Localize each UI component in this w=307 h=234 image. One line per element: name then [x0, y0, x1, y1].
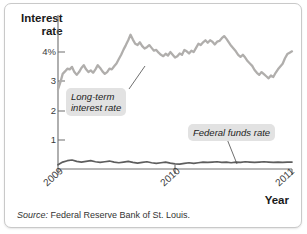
- annotation-long-term-line2: interest rate: [71, 102, 121, 113]
- source-note: Source: Federal Reserve Bank of St. Loui…: [17, 210, 190, 220]
- y-tick-label-1: 1: [30, 134, 56, 145]
- figure-card: Interest rate Year 4% 3 2 1 2009 2010 20…: [4, 3, 302, 228]
- annotation-long-term-line1: Long-term: [71, 91, 114, 102]
- annotation-long-term-interest-rate: Long-term interest rate: [66, 88, 126, 116]
- y-tick-label-2: 2: [30, 105, 56, 116]
- annotation-federal-funds-line1: Federal funds rate: [193, 127, 270, 138]
- y-tick-label-4: 4%: [30, 46, 56, 57]
- y-tick-label-3: 3: [30, 75, 56, 86]
- series-federal-funds-rate: [58, 160, 292, 165]
- source-text: Federal Reserve Bank of St. Louis.: [51, 210, 191, 220]
- leader-line-long-term: [129, 66, 145, 89]
- annotation-federal-funds-rate: Federal funds rate: [188, 124, 275, 141]
- source-prefix: Source:: [17, 210, 48, 220]
- series-long-term-interest-rate: [58, 35, 292, 90]
- leader-line-federal-funds: [227, 139, 237, 164]
